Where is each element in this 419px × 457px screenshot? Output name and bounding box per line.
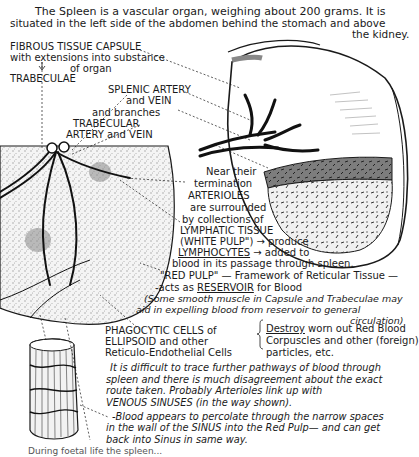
- reservoir-label: RESERVOIR: [197, 282, 254, 293]
- white-pulp-text: (WHITE PULP") → produce: [180, 236, 309, 247]
- white-pulp-label: (WHITE PULP"): [180, 236, 253, 247]
- capsule-label: FIBROUS TISSUE CAPSULE: [10, 41, 141, 52]
- destroy-text-rest: worn out Red Blood: [305, 323, 406, 334]
- destroy-text-2: Corpuscles and other (foreign): [266, 335, 419, 346]
- splenic-artery-label: SPLENIC ARTERY: [108, 84, 191, 95]
- phagocytic-label-2: ELLIPSOID and other: [105, 336, 208, 347]
- intro-line-1: The Spleen is a vascular organ, weighing…: [35, 6, 386, 17]
- arterioles-text-4: are surrounded: [190, 202, 266, 213]
- venous-sinuses-label: VENOUS SINUSES (in the way shown).: [106, 397, 292, 408]
- destroy-text-3: particles, etc.: [266, 347, 334, 358]
- arterioles-text-9: blood in its passage through spleen.: [172, 258, 354, 269]
- pathway-note-1: It is difficult to trace further pathway…: [110, 362, 381, 373]
- footer-cut-text: During foetal life the spleen...: [28, 446, 162, 457]
- muscle-note-2: aid in expelling blood from reservoir to…: [136, 304, 360, 315]
- reservoir-text: -acts as RESERVOIR for Blood: [155, 282, 302, 293]
- destroy-text: Destroy worn out Red Blood: [266, 323, 406, 334]
- lymphatic-tissue-label: LYMPHATIC TISSUE: [180, 225, 273, 236]
- pathway-note-2: spleen and there is much disagreement ab…: [106, 374, 382, 385]
- venous-sinus-drawing: [30, 339, 78, 439]
- muscle-note-1: (Some smooth muscle in Capsule and Trabe…: [144, 293, 403, 304]
- intro-line-3: the kidney.: [352, 29, 409, 40]
- percolate-note-1: -Blood appears to percolate through the …: [112, 411, 384, 422]
- destroy-label: Destroy: [266, 323, 305, 334]
- phagocytic-label: PHAGOCYTIC CELLS of: [105, 325, 217, 336]
- lymphocytes-text: LYMPHOCYTES → added to: [178, 247, 309, 258]
- splenic-artery-label-3: and branches: [92, 107, 160, 118]
- trabeculae-label: TRABECULAE: [10, 73, 76, 84]
- arterioles-text-5: by collections of: [182, 214, 263, 225]
- red-pulp-label: "RED PULP" — Framework of Reticular Tiss…: [160, 270, 398, 281]
- trabecular-artery-label-2: ARTERY and VEIN: [66, 129, 153, 140]
- arterioles-text-1: Near their: [206, 166, 256, 177]
- acts-as-text: -acts as: [155, 282, 197, 293]
- white-pulp-nodule: [25, 228, 51, 252]
- intro-line-2: situated in the left side of the abdomen…: [10, 18, 385, 29]
- splenic-artery-label-2: and VEIN: [126, 95, 172, 106]
- capsule-label-2: with extensions into substance: [10, 52, 165, 63]
- percolate-note-3: back into Sinus in same way.: [106, 434, 248, 445]
- arterioles-text-3: ARTERIOLES: [188, 190, 250, 201]
- lymphocytes-label: LYMPHOCYTES: [178, 247, 250, 258]
- trabecular-artery-label: TRABECULAR: [73, 118, 140, 129]
- added-to-text: → added to: [253, 247, 309, 258]
- bracket: [257, 320, 263, 349]
- for-blood-text: for Blood: [254, 282, 302, 293]
- arrow-icon: [39, 62, 45, 70]
- arterioles-text-2: termination: [194, 178, 252, 189]
- produce-text: → produce: [257, 236, 309, 247]
- pathway-note-3: route taken. Probably Arterioles link up…: [106, 385, 322, 396]
- capsule-label-3: of organ: [70, 63, 112, 74]
- percolate-note-2: in the wall of the SINUS into the Red Pu…: [106, 422, 380, 433]
- phagocytic-label-3: Reticulo-Endothelial Cells: [105, 347, 232, 358]
